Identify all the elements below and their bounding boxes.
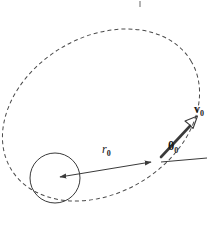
velocity-vector-arrow [161, 116, 198, 157]
velocity-label-subscript: 0 [200, 109, 204, 118]
velocity-label: v0 [194, 103, 204, 118]
radius-label: r0 [102, 143, 111, 158]
angle-label: θ0 [168, 140, 178, 155]
angle-label-subscript: 0 [174, 146, 178, 155]
radius-label-subscript: 0 [107, 149, 111, 158]
radius-vector-arrow [60, 162, 151, 177]
orbit-diagram-figure: r0 v0 θ0 [0, 0, 219, 226]
orbit-diagram-canvas [0, 0, 219, 226]
orbit-ellipse [0, 0, 219, 226]
reference-line [161, 158, 207, 162]
scan-artifact-mark [139, 1, 141, 7]
central-body-circle [30, 153, 80, 203]
